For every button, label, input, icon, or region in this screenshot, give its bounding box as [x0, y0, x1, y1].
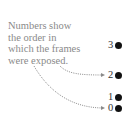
arrow-to-frame-0	[34, 66, 104, 108]
frame-number: 3	[108, 40, 113, 50]
arrow-to-frame-2	[60, 66, 104, 75]
frame-number: 2	[108, 70, 113, 80]
frame-marker-3: 3	[108, 40, 122, 50]
frame-number: 1	[108, 92, 113, 102]
frame-dot-icon	[115, 105, 122, 112]
frame-dot-icon	[115, 94, 122, 101]
frame-marker-1: 1	[108, 92, 122, 102]
frame-marker-0: 0	[108, 103, 122, 113]
frame-dot-icon	[115, 72, 122, 79]
frame-dot-icon	[115, 42, 122, 49]
frame-number: 0	[108, 103, 113, 113]
frame-marker-2: 2	[108, 70, 122, 80]
